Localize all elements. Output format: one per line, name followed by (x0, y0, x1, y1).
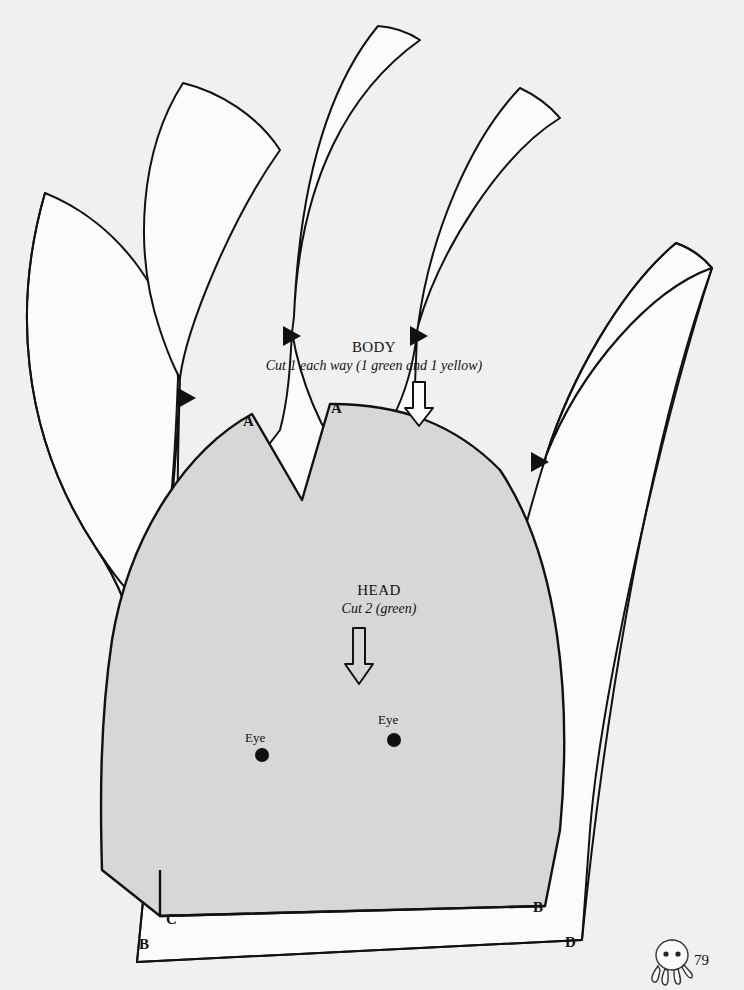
head-instruction: Cut 2 (green) (342, 601, 417, 617)
eye-dot-left (255, 748, 269, 762)
body-corner-label-d: D (565, 934, 576, 951)
body-petal-left-inner (144, 83, 280, 378)
body-instruction: Cut 1 each way (1 green and 1 yellow) (266, 358, 482, 374)
triangle-marker-petal-center (410, 326, 428, 346)
pattern-page: BODY Cut 1 each way (1 green and 1 yello… (0, 0, 744, 990)
head-notch-label-a-right: A (331, 400, 342, 417)
eye-label-left: Eye (245, 731, 265, 746)
head-corner-label-c: C (166, 911, 177, 928)
body-petal-center (292, 26, 420, 332)
eye-dot-right (387, 733, 401, 747)
head-corner-label-b: B (533, 899, 543, 916)
octopus-icon (652, 940, 692, 985)
head-notch-label-a-left: A (243, 413, 254, 430)
pattern-artwork (0, 0, 744, 990)
eye-label-right: Eye (378, 713, 398, 728)
body-corner-label-b: B (139, 936, 149, 953)
page-number: 79 (694, 952, 709, 969)
head-title: HEAD (357, 582, 400, 599)
triangle-marker-petal-left (178, 388, 196, 408)
body-title: BODY (352, 339, 396, 356)
body-petal-right-inner (417, 88, 560, 332)
